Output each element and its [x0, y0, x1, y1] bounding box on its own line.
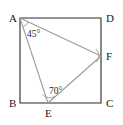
vertex-label-d: D	[106, 12, 114, 24]
vertex-label-c: C	[106, 97, 113, 109]
vertex-label-a: A	[9, 12, 17, 24]
geometry-figure-container: 45° 70° A D B C E F	[0, 0, 123, 125]
angle-label-45: 45°	[27, 29, 41, 39]
vertex-label-b: B	[9, 97, 16, 109]
angle-label-70: 70°	[49, 86, 63, 96]
vertex-label-f: F	[106, 50, 112, 62]
geometry-figure-svg: 45° 70° A D B C E F	[0, 0, 123, 125]
vertex-label-e: E	[45, 107, 52, 119]
angle-arc-at-a	[23, 22, 29, 27]
